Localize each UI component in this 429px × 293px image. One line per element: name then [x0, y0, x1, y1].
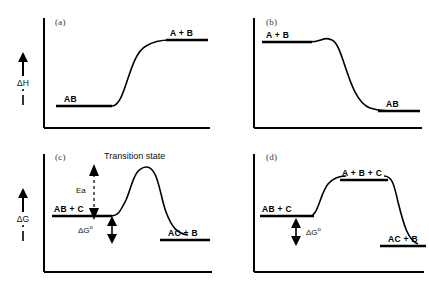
activation-energy-label: Ea: [76, 186, 86, 195]
panel-label-b: (b): [266, 17, 277, 27]
panel-label-a: (a): [55, 17, 66, 27]
free-energy-change-label: ΔGo: [306, 226, 321, 237]
species-label-product-d: AC + B: [388, 234, 418, 244]
panel-d-plot: [252, 150, 426, 282]
dash-dot-tail-icon: [10, 224, 36, 244]
panel-b: (b) A + B AB: [252, 10, 424, 135]
species-label-product-a: A + B: [170, 28, 193, 38]
energy-profile-figure: ΔH ΔG (a) AB A + B: [0, 0, 429, 293]
species-label-product-b: AB: [386, 99, 399, 109]
free-energy-change-arrow: [107, 216, 117, 244]
activation-energy-arrow: [89, 164, 99, 220]
species-label-reactant-c: AB + C: [54, 204, 84, 214]
free-energy-change-arrow: [291, 218, 301, 246]
panel-label-c: (c): [55, 152, 66, 162]
panel-c: (c) Transition state Ea ΔGo AB + C AC + …: [42, 150, 214, 282]
panel-b-plot: [252, 10, 424, 135]
panel-a: (a) AB A + B: [42, 10, 212, 135]
panel-d: (d) A + B + C AB + C AC + B ΔGo: [252, 150, 426, 282]
reaction-curve: [110, 167, 188, 235]
reaction-curve: [112, 40, 170, 106]
panel-c-plot: [42, 150, 214, 282]
y-axis-label-text: ΔG: [10, 214, 36, 224]
species-label-product-c: AC + B: [168, 228, 198, 238]
species-label-reactant-d: AB + C: [262, 204, 292, 214]
up-arrow-icon: [10, 52, 36, 78]
dash-dot-tail-icon: [10, 88, 36, 108]
reaction-curve: [308, 39, 388, 111]
transition-state-label: Transition state: [104, 151, 165, 161]
y-axis-title-free-energy: ΔG: [10, 188, 36, 244]
ascending-curve: [310, 176, 346, 216]
y-axis-label-text: ΔH: [10, 78, 36, 88]
y-axis-title-enthalpy: ΔH: [10, 52, 36, 108]
species-label-reactant-a: AB: [64, 94, 77, 104]
species-label-intermediate-d: A + B + C: [342, 168, 382, 178]
up-arrow-icon: [10, 188, 36, 214]
free-energy-change-label: ΔGo: [78, 224, 93, 235]
species-label-reactant-b: A + B: [266, 30, 289, 40]
panel-label-d: (d): [266, 152, 277, 162]
